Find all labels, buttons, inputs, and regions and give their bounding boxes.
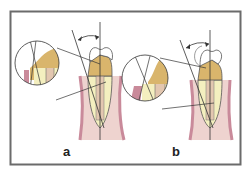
dental-diagram: [0, 0, 246, 169]
panel-label-b: b: [172, 145, 180, 158]
panel-label-a: a: [63, 145, 70, 158]
